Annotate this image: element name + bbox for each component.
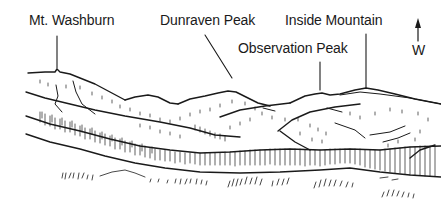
- label-dunraven-peak: Dunraven Peak: [160, 12, 255, 28]
- label-mt-washburn: Mt. Washburn: [29, 12, 114, 28]
- leader-line-dunraven-peak: [205, 35, 232, 78]
- landscape-diagram: Mt. Washburn Dunraven Peak Inside Mounta…: [0, 0, 441, 211]
- foreground-grass: [62, 170, 414, 198]
- ridgelines: [26, 69, 441, 177]
- compass-direction-label: W: [412, 42, 425, 58]
- landscape-sketch: [0, 0, 441, 211]
- label-inside-mountain: Inside Mountain: [285, 12, 382, 28]
- label-observation-peak: Observation Peak: [238, 40, 348, 56]
- forest-hatching: [40, 112, 435, 176]
- compass-arrow-up-icon: [413, 17, 423, 41]
